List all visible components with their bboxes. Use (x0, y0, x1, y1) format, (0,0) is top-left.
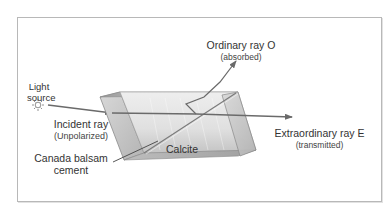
incident-ray-line (48, 105, 112, 113)
ordinary-ray-subtitle: (absorbed) (187, 53, 295, 62)
light-source-label-line1: Light (27, 82, 51, 92)
light-source-label-line2: source (27, 93, 51, 103)
extraordinary-ray-subtitle: (transmitted) (267, 141, 372, 150)
calcite-label: Calcite (166, 144, 198, 155)
ordinary-ray-label: Ordinary ray O (absorbed) (187, 40, 295, 61)
ordinary-ray-title: Ordinary ray O (187, 40, 295, 51)
prism-illustration (0, 0, 391, 213)
canada-balsam-label: Canada balsam cement (32, 153, 110, 175)
canada-balsam-label-line1: Canada balsam (32, 153, 110, 164)
incident-ray-subtitle: (Unpolarized) (48, 132, 114, 141)
extraordinary-ray-label: Extraordinary ray E (transmitted) (267, 128, 372, 149)
incident-ray-title: Incident ray (48, 119, 114, 130)
light-source-label: Light source (27, 82, 51, 102)
canada-balsam-label-line2: cement (32, 165, 110, 176)
extraordinary-ray-title: Extraordinary ray E (267, 128, 372, 139)
incident-ray-label: Incident ray (Unpolarized) (48, 119, 114, 141)
